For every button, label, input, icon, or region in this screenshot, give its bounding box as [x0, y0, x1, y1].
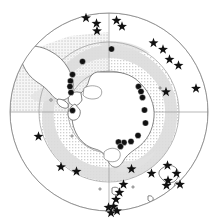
island-speck-a	[50, 99, 52, 101]
dot-marker	[69, 71, 75, 77]
dot-marker	[135, 132, 141, 138]
polar-map-figure	[0, 0, 218, 224]
dot-marker	[67, 78, 73, 84]
ross-ice-shelf	[104, 148, 120, 161]
map-canvas	[0, 0, 218, 224]
dot-marker	[68, 89, 74, 95]
dot-marker	[67, 83, 73, 89]
dot-marker	[142, 120, 148, 126]
dot-marker	[69, 107, 75, 113]
island-speck-b	[71, 135, 73, 137]
dot-marker	[117, 143, 123, 149]
map-field	[10, 13, 208, 211]
dot-marker	[141, 107, 147, 113]
dot-marker	[139, 94, 145, 100]
island-speck-d	[132, 186, 134, 188]
dot-marker	[79, 58, 85, 64]
dot-marker	[128, 138, 134, 144]
island-speck-e	[99, 188, 101, 190]
dot-marker	[108, 46, 114, 52]
dot-marker	[138, 88, 144, 94]
island-speck-c	[159, 87, 161, 89]
filchner-ronne-ice-shelf	[83, 86, 102, 99]
